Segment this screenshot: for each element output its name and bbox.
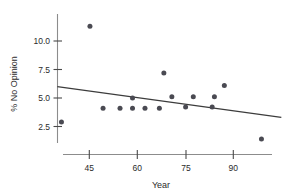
data-point (130, 106, 135, 111)
data-point (191, 94, 196, 99)
data-point (130, 96, 135, 101)
x-tick-label: 45 (85, 163, 95, 173)
y-tick-label: 2.5 (38, 122, 50, 132)
y-tick-label: 5.0 (38, 93, 50, 103)
data-point (212, 94, 217, 99)
regression-line (57, 87, 281, 118)
data-point (157, 106, 162, 111)
y-tick-label: 7.5 (38, 65, 50, 75)
x-tick-label: 90 (229, 163, 239, 173)
data-point (210, 105, 215, 110)
y-axis-title: % No Opinion (9, 56, 19, 112)
data-point (259, 137, 264, 142)
x-tick-label: 75 (181, 163, 191, 173)
data-point (59, 119, 64, 124)
data-point (183, 105, 188, 110)
data-point (161, 70, 166, 75)
data-point (101, 106, 106, 111)
x-axis-title: Year (152, 180, 170, 190)
data-point (87, 24, 92, 29)
data-points (59, 24, 264, 142)
data-point (222, 83, 227, 88)
y-tick-labels: 10.0 7.5 5.0 2.5 (33, 36, 50, 132)
plot-area: 10.0 7.5 5.0 2.5 45 60 75 90 Year % No O… (0, 0, 289, 191)
scatter-chart: 10.0 7.5 5.0 2.5 45 60 75 90 Year % No O… (0, 0, 289, 191)
data-point (169, 94, 174, 99)
y-tick-label: 10.0 (33, 36, 50, 46)
x-tick-labels: 45 60 75 90 (85, 163, 239, 173)
data-point (118, 106, 123, 111)
data-point (142, 106, 147, 111)
x-tick-label: 60 (133, 163, 143, 173)
